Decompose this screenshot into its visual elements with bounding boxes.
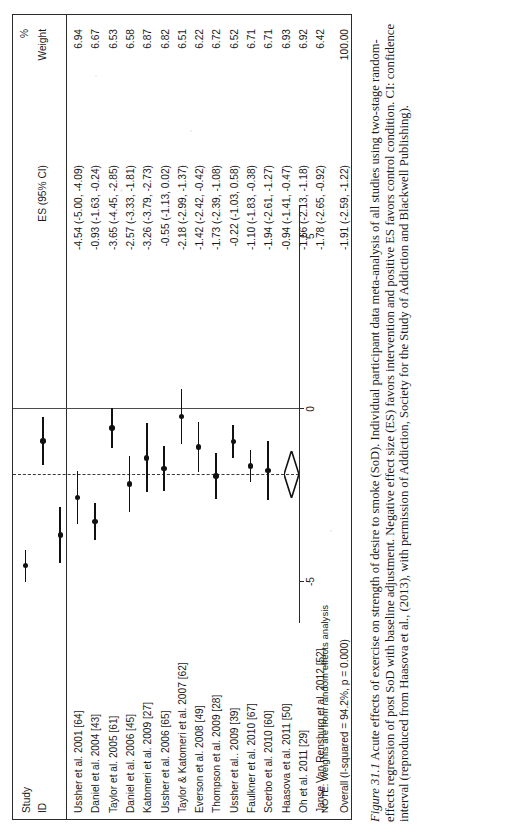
study-id-label: Taylor & Katomeri et al. 2007 [62]	[177, 662, 188, 813]
x-axis-tick-label: 0	[305, 406, 316, 412]
effect-size-marker	[23, 563, 28, 568]
study-id-label: Daniel et al. 2004 [43]	[90, 714, 101, 813]
weight-value: 6.67	[90, 29, 101, 73]
study-id-label: Ussher et al.. 2009 [39]	[229, 708, 240, 813]
effect-size-marker	[231, 439, 236, 444]
x-axis-tick	[299, 581, 304, 582]
weight-value: 100.00	[339, 29, 350, 73]
study-id-label: Haasova et al. 2011 [50]	[281, 703, 292, 813]
weight-value: 6.53	[108, 29, 119, 73]
effect-size-marker	[92, 519, 97, 524]
scan-artifact	[95, 75, 97, 77]
weight-value: 6.51	[177, 29, 188, 73]
forest-plot-graph-area	[13, 205, 299, 623]
study-id-label: Scerbo et al. 2010 [60]	[263, 710, 274, 813]
effect-size-marker	[75, 495, 80, 500]
weight-value: 6.92	[298, 29, 309, 73]
effect-size-value: -1.91 (-2.59, -1.22)	[339, 165, 350, 250]
weight-value: 6.52	[229, 29, 240, 73]
study-id-label: Everson et al. 2008 [49]	[194, 705, 205, 813]
study-id-label: Thompson et al. 2009 [28]	[211, 695, 222, 813]
study-id-label: Faulkner et al. 2010 [67]	[246, 703, 257, 813]
weight-value: 6.42	[315, 29, 326, 73]
pooled-estimate-line	[13, 474, 299, 475]
effect-size-marker	[144, 455, 149, 460]
effect-size-marker	[127, 481, 132, 486]
x-axis-line	[299, 205, 300, 623]
plot-note: NOTE: Weights are from random effects an…	[319, 605, 330, 813]
column-header-study: Study	[21, 787, 32, 813]
x-axis-tick	[299, 235, 304, 236]
weight-value: 6.72	[211, 29, 222, 73]
scan-artifact	[330, 530, 332, 532]
x-axis: -505	[299, 205, 321, 623]
study-id-label: Taylor et al. 2005 [61]	[108, 716, 119, 813]
pooled-estimate-diamond	[284, 451, 299, 498]
x-axis-tick	[299, 408, 304, 409]
figure-caption: Figure 31.1 Acute effects of exercise on…	[368, 10, 412, 822]
study-id-label: Ussher et al. 2006 [65]	[160, 710, 171, 813]
x-axis-tick-label: 5	[305, 233, 316, 239]
study-id-label: Overall (I-squared = 94.2%, p = 0.000)	[339, 639, 350, 813]
effect-size-marker	[40, 438, 45, 443]
weight-value: 6.58	[125, 29, 136, 73]
column-header-id: ID	[37, 803, 48, 813]
weight-value: 6.94	[73, 29, 84, 73]
scan-artifact	[190, 130, 192, 132]
figure-label: Figure 31.1	[368, 763, 382, 822]
effect-size-marker	[196, 444, 201, 449]
column-header-percent: %	[19, 29, 30, 38]
effect-size-marker	[109, 425, 114, 430]
column-header-weight: Weight	[37, 29, 48, 61]
effect-size-marker	[213, 473, 218, 478]
weight-value: 6.87	[142, 29, 153, 73]
effect-size-marker	[161, 466, 166, 471]
null-effect-line	[13, 408, 299, 409]
scan-artifact	[120, 189, 123, 192]
figure-caption-text: Acute effects of exercise on strength of…	[368, 24, 411, 822]
rotated-figure-page: Study ID ES (95% CI) % Weight Ussher et …	[0, 0, 512, 832]
weight-value: 6.22	[194, 29, 205, 73]
x-axis-tick-label: -5	[305, 577, 316, 586]
effect-size-marker	[58, 532, 63, 537]
effect-size-marker	[265, 468, 270, 473]
scan-artifact	[205, 170, 207, 172]
weight-value: 6.93	[281, 29, 292, 73]
weight-value: 6.82	[160, 29, 171, 73]
weight-value: 6.71	[263, 29, 274, 73]
effect-size-marker	[179, 414, 184, 419]
forest-plot-frame: Study ID ES (95% CI) % Weight Ussher et …	[12, 14, 352, 820]
weight-value: 6.71	[246, 29, 257, 73]
study-id-label: Ussher et al. 2001 [64]	[73, 710, 84, 813]
study-id-label: Oh et al. 2011 [29]	[298, 730, 309, 813]
study-id-label: Daniel et al. 2006 [45]	[125, 714, 136, 813]
study-id-label: Katomeri et al. 2009 [27]	[142, 702, 153, 813]
effect-size-marker	[248, 463, 253, 468]
table-row: Overall (I-squared = 94.2%, p = 0.000)-1…	[337, 15, 354, 819]
